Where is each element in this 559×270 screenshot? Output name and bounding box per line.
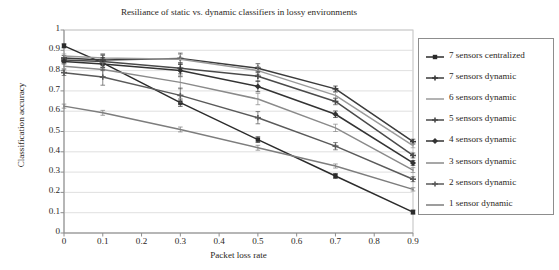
legend-swatch-icon	[425, 197, 445, 209]
data-point-marker	[411, 210, 415, 214]
legend-item[interactable]: 2 sensors dynamic	[419, 171, 553, 192]
legend-label: 2 sensors dynamic	[449, 177, 516, 187]
legend-item[interactable]: 4 sensors dynamic	[419, 129, 553, 150]
legend: 7 sensors centralized7 sensors dynamic6 …	[418, 38, 554, 215]
legend-label: 7 sensors dynamic	[449, 71, 516, 81]
legend-label: 6 sensors dynamic	[449, 92, 516, 102]
legend-swatch-icon	[425, 70, 445, 82]
legend-swatch-icon	[425, 112, 445, 124]
legend-item[interactable]: 3 sensors dynamic	[419, 150, 553, 171]
data-point-marker	[433, 54, 437, 58]
legend-label: 1 sensor dynamic	[449, 198, 513, 208]
data-point-marker	[333, 174, 337, 178]
legend-item[interactable]: 7 sensors centralized	[419, 44, 553, 65]
legend-label: 4 sensors dynamic	[449, 134, 516, 144]
legend-swatch-icon	[425, 133, 445, 145]
legend-item[interactable]: 7 sensors dynamic	[419, 65, 553, 86]
legend-item[interactable]: 6 sensors dynamic	[419, 86, 553, 107]
chart-figure: Resiliance of static vs. dynamic classif…	[0, 0, 559, 270]
legend-item[interactable]: 5 sensors dynamic	[419, 108, 553, 129]
legend-label: 7 sensors centralized	[449, 50, 525, 60]
legend-item[interactable]: 1 sensor dynamic	[419, 192, 553, 213]
legend-swatch-icon	[425, 176, 445, 188]
legend-swatch-icon	[425, 49, 445, 61]
data-point-marker	[256, 137, 260, 141]
legend-swatch-icon	[425, 91, 445, 103]
data-point-marker	[432, 138, 438, 144]
data-point-marker	[62, 44, 66, 48]
legend-swatch-icon	[425, 155, 445, 167]
legend-label: 5 sensors dynamic	[449, 113, 516, 123]
legend-label: 3 sensors dynamic	[449, 156, 516, 166]
